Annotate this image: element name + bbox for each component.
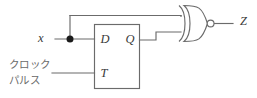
xnor-gate-body (184, 6, 208, 42)
wire-q-to-xnor (140, 32, 182, 40)
junction-dot-icon (67, 36, 74, 43)
xnor-gate-xor-arc (179, 6, 185, 42)
xnor-inversion-bubble-icon (207, 20, 214, 27)
pin-label-t: T (101, 66, 109, 80)
logic-circuit-svg: x Z D Q T クロック パルス (0, 0, 257, 98)
input-label-x: x (37, 31, 44, 45)
pin-label-d: D (99, 32, 109, 46)
clock-pulse-label-line2: パルス (9, 74, 40, 86)
output-label-z: Z (240, 14, 248, 28)
pin-label-q: Q (125, 32, 134, 46)
circuit-diagram-page: x Z D Q T クロック パルス (0, 0, 257, 98)
clock-pulse-label-line1: クロック (9, 58, 51, 70)
